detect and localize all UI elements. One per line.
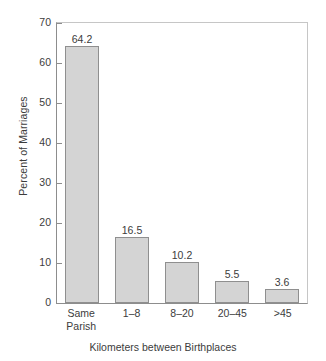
x-tick-label-line: 8–20 (170, 307, 193, 319)
y-tick-label: 60 (39, 56, 51, 68)
y-axis-title: Percent of Marriages (17, 61, 29, 231)
x-tick-label: 8–20 (157, 307, 207, 339)
bar[interactable]: 10.2 (165, 262, 199, 303)
bar-group: 5.5 (207, 23, 257, 303)
bar-value-label: 10.2 (172, 249, 192, 261)
x-tick-label-line: Same (67, 307, 94, 319)
y-tick-label: 20 (39, 216, 51, 228)
bar-value-label: 64.2 (72, 33, 92, 45)
bar-value-label: 5.5 (225, 268, 240, 280)
bar-group: 10.2 (157, 23, 207, 303)
bar-value-label: 3.6 (275, 276, 290, 288)
x-tick-label-line: >45 (274, 307, 292, 319)
bar[interactable]: 16.5 (115, 237, 149, 303)
bar[interactable]: 3.6 (265, 289, 299, 303)
x-axis-title: Kilometers between Birthplaces (0, 341, 326, 353)
x-tick-label-line: 1–8 (123, 307, 141, 319)
bar-group: 64.2 (57, 23, 107, 303)
bar-series: 64.216.510.25.53.6 (57, 23, 307, 303)
x-tick-label: 20–45 (207, 307, 257, 339)
x-axis-tick-labels: SameParish1–88–2020–45>45 (56, 307, 308, 339)
y-tick-label: 30 (39, 176, 51, 188)
x-tick-label: >45 (258, 307, 308, 339)
x-tick-label-line: Parish (56, 320, 106, 333)
y-tick-label: 10 (39, 256, 51, 268)
bar-value-label: 16.5 (122, 224, 142, 236)
y-tick-label: 40 (39, 136, 51, 148)
bar-group: 3.6 (257, 23, 307, 303)
x-tick-label: SameParish (56, 307, 106, 339)
x-tick-label: 1–8 (106, 307, 156, 339)
bar-group: 16.5 (107, 23, 157, 303)
bar[interactable]: 64.2 (65, 46, 99, 303)
y-tick-label: 50 (39, 96, 51, 108)
y-tick-label: 0 (45, 296, 51, 308)
bar[interactable]: 5.5 (215, 281, 249, 303)
x-tick-label-line: 20–45 (218, 307, 247, 319)
plot-area: 010203040506070 64.216.510.25.53.6 (56, 22, 308, 304)
y-tick-label: 70 (39, 16, 51, 28)
bar-chart-figure: Percent of Marriages 010203040506070 64.… (0, 0, 326, 361)
